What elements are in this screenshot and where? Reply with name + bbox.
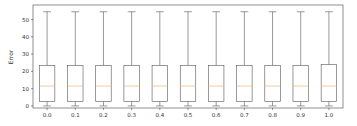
x-tick-label: 0.2 [99, 112, 108, 118]
iqr-box [180, 65, 196, 101]
chart-canvas: 010203040500.00.10.20.30.40.50.60.70.80.… [0, 0, 357, 126]
y-tick-label: 30 [22, 51, 29, 57]
x-tick-label: 0.6 [212, 112, 221, 118]
plot-axes: 010203040500.00.10.20.30.40.50.60.70.80.… [22, 5, 343, 118]
box-0.7 [237, 12, 253, 106]
x-tick-label: 1.0 [325, 112, 334, 118]
iqr-box [265, 65, 281, 101]
y-tick-label: 10 [22, 86, 29, 92]
x-tick-label: 0.5 [184, 112, 193, 118]
x-tick-label: 0.8 [268, 112, 277, 118]
box-1.0 [321, 12, 337, 106]
x-tick-label: 0.1 [71, 112, 80, 118]
y-tick-label: 0 [26, 103, 30, 109]
box-0.5 [180, 12, 196, 106]
x-tick-label: 0.7 [240, 112, 249, 118]
box-series [39, 12, 336, 106]
x-tick-label: 0.9 [296, 112, 305, 118]
iqr-box [39, 65, 55, 101]
y-tick-label: 50 [22, 17, 29, 23]
x-tick-label: 0.4 [155, 112, 164, 118]
iqr-box [321, 64, 337, 101]
y-tick-label: 40 [22, 34, 29, 40]
box-0.2 [96, 12, 112, 106]
box-plot-chart: 010203040500.00.10.20.30.40.50.60.70.80.… [0, 0, 357, 126]
iqr-box [68, 65, 84, 101]
iqr-box [237, 65, 253, 101]
y-axis-label: Error [7, 49, 14, 64]
box-0.1 [68, 12, 84, 106]
box-0.6 [208, 12, 224, 106]
iqr-box [124, 65, 139, 101]
box-0.4 [152, 12, 168, 106]
x-tick-label: 0.0 [43, 112, 52, 118]
iqr-box [293, 65, 309, 101]
x-tick-label: 0.3 [127, 112, 136, 118]
iqr-box [208, 65, 224, 101]
box-0.9 [293, 12, 309, 106]
iqr-box [152, 65, 168, 101]
box-0.3 [124, 12, 140, 106]
box-0.8 [265, 12, 281, 106]
y-tick-label: 20 [22, 68, 29, 74]
box-0.0 [39, 12, 55, 106]
iqr-box [96, 65, 112, 101]
